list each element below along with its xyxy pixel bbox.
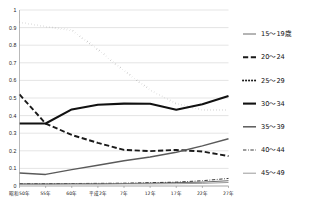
y-axis-tick-label: 0.8 <box>9 42 16 48</box>
line-chart: 10.90.80.70.60.50.40.30.20.10 昭和50年55年60… <box>0 0 324 214</box>
x-axis-tick-label: 22年 <box>197 190 208 197</box>
x-axis-tick-label: 12年 <box>145 190 156 197</box>
y-axis-tick-label: 0.4 <box>9 113 16 119</box>
y-axis-tick-label: 0.7 <box>9 60 16 66</box>
y-axis-tick-label: 0.6 <box>9 77 16 83</box>
legend-label: 20〜24 <box>261 53 285 61</box>
x-axis-tick-label: 27年 <box>223 190 234 197</box>
legend-label: 25〜29 <box>261 77 285 85</box>
legend-item-1[interactable]: 15〜19歳 <box>243 29 292 38</box>
x-axis-tick-label: 55年 <box>40 190 51 197</box>
y-axis-tick-label: 0 <box>13 183 16 189</box>
series-line-5 <box>20 139 229 175</box>
y-axis-tick-label: 0.2 <box>9 148 16 154</box>
legend-item-4[interactable]: 30〜34 <box>243 100 285 108</box>
x-axis-tick-label: 60年 <box>66 190 77 197</box>
data-series-layer <box>20 22 229 184</box>
x-axis-tick-labels: 昭和50年55年60年平成2年7年12年17年22年27年 <box>9 190 234 197</box>
gridlines <box>20 10 229 186</box>
legend-label: 35〜39 <box>261 123 285 131</box>
x-axis-tick-label: 7年 <box>120 190 128 197</box>
y-axis-tick-labels: 10.90.80.70.60.50.40.30.20.10 <box>9 7 16 189</box>
chart-canvas: 10.90.80.70.60.50.40.30.20.10 昭和50年55年60… <box>0 0 324 214</box>
y-axis-tick-label: 0.9 <box>9 25 16 31</box>
y-axis-tick-label: 0.1 <box>9 165 16 171</box>
legend-item-2[interactable]: 20〜24 <box>243 53 285 61</box>
legend-label: 15〜19歳 <box>261 29 292 38</box>
legend-label: 45〜49 <box>261 169 285 177</box>
chart-legend: 15〜19歳20〜2425〜2930〜3435〜3940〜4445〜49 <box>243 29 292 177</box>
x-axis-tick-label: 17年 <box>171 190 182 197</box>
legend-item-7[interactable]: 45〜49 <box>243 169 285 177</box>
legend-item-3[interactable]: 25〜29 <box>243 77 285 85</box>
series-line-6 <box>20 178 229 183</box>
y-axis-tick-label: 0.5 <box>9 95 16 101</box>
legend-label: 40〜44 <box>261 146 285 154</box>
legend-label: 30〜34 <box>261 100 285 108</box>
series-line-4 <box>20 96 229 124</box>
legend-item-6[interactable]: 40〜44 <box>243 146 285 154</box>
y-axis-tick-label: 1 <box>13 7 16 13</box>
x-axis-tick-label: 昭和50年 <box>9 190 30 197</box>
legend-item-5[interactable]: 35〜39 <box>243 123 285 131</box>
y-axis-tick-label: 0.3 <box>9 130 16 136</box>
series-line-3 <box>20 22 229 110</box>
x-axis-tick-label: 平成2年 <box>89 190 107 197</box>
